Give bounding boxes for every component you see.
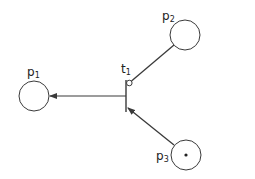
petri-net-diagram: p1 p2 p3 t1 xyxy=(0,0,255,179)
place-p2 xyxy=(170,20,200,50)
inhibitor-circle-icon xyxy=(127,80,133,86)
label-p1-sub: 1 xyxy=(35,71,40,80)
label-p2-base: p xyxy=(162,9,170,23)
diagram-svg xyxy=(0,0,255,179)
label-t1: t1 xyxy=(121,63,131,77)
label-p2-sub: 2 xyxy=(170,15,175,24)
label-p3-sub: 3 xyxy=(164,155,169,164)
label-p1-base: p xyxy=(27,65,35,79)
place-p1 xyxy=(19,81,49,111)
arc-inhibitor-p2-t1 xyxy=(132,45,175,81)
label-t1-sub: 1 xyxy=(126,68,131,77)
label-p3-base: p xyxy=(156,149,164,163)
token-p3 xyxy=(184,153,187,156)
label-p1: p1 xyxy=(27,66,40,80)
label-p2: p2 xyxy=(162,10,175,24)
label-p3: p3 xyxy=(156,150,169,164)
arc-input-p3-t1 xyxy=(128,108,174,145)
